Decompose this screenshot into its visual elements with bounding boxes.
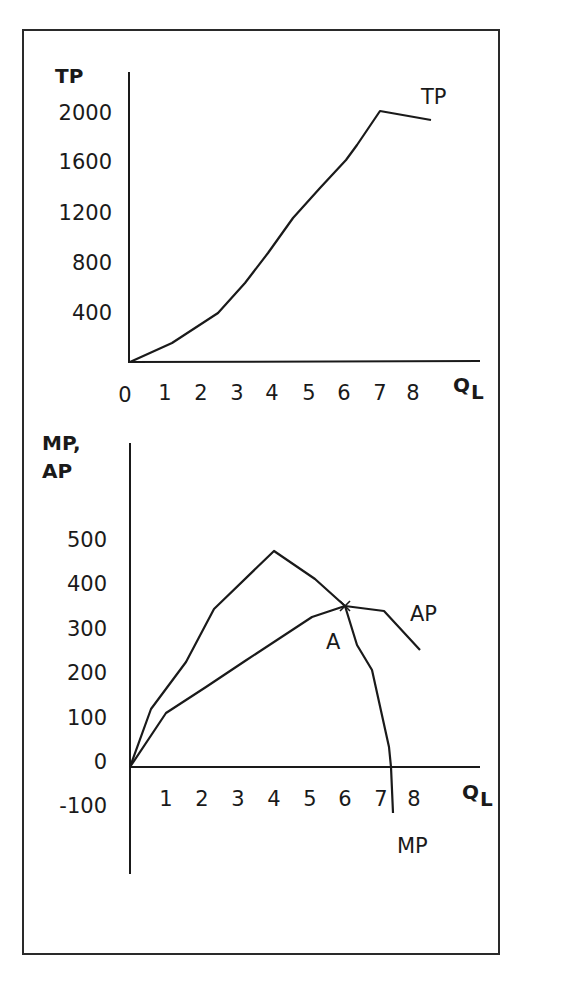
tp-ytick-400: 400 [72,301,112,325]
mp-ap-ytick-200: 200 [67,661,107,685]
mp-ap-xtick: 4 [267,787,280,811]
svg-text:L: L [471,380,484,404]
mp-ap-chart: MP, AP 500 400 300 200 100 0 -100 1 2 3 … [42,431,493,874]
tp-x-axis [129,361,480,362]
mp-ap-xtick: 6 [338,787,351,811]
tp-ytick-2000: 2000 [59,101,112,125]
tp-xtick: 7 [373,381,386,405]
mp-ap-x-ticks: 1 2 3 4 5 6 7 8 [159,787,420,811]
mp-curve [130,551,393,813]
mp-ap-ytick-500: 500 [67,528,107,552]
tp-xtick: 0 [118,383,131,407]
mp-ap-ytick-300: 300 [67,617,107,641]
mp-curve-label: MP [397,834,428,858]
mp-ap-ytick-100: 100 [67,706,107,730]
point-a-label: A [326,630,341,654]
tp-ytick-1600: 1600 [59,150,112,174]
tp-xtick: 2 [194,381,207,405]
mp-ap-xtick: 7 [374,787,387,811]
tp-x-axis-label: Q L [453,373,484,404]
tp-xtick: 5 [302,381,315,405]
tp-ytick-800: 800 [72,251,112,275]
mp-ap-xtick: 5 [303,787,316,811]
mp-ap-ytick-0: 0 [94,750,107,774]
tp-xtick: 3 [230,381,243,405]
tp-y-ticks: 2000 1600 1200 800 400 [59,101,112,325]
tp-y-axis-label: TP [55,64,83,88]
tp-xtick: 6 [337,381,350,405]
mp-ap-ytick-minus100: -100 [59,794,107,818]
mp-ap-x-axis-label: Q L [462,780,493,811]
production-charts: TP 2000 1600 1200 800 400 0 1 2 3 4 5 6 … [0,0,561,988]
mp-ap-xtick: 1 [159,787,172,811]
tp-xtick: 4 [265,381,278,405]
svg-text:L: L [480,787,493,811]
tp-chart: TP 2000 1600 1200 800 400 0 1 2 3 4 5 6 … [55,64,484,407]
svg-text:Q: Q [462,780,479,804]
tp-ytick-1200: 1200 [59,201,112,225]
tp-curve [130,111,431,362]
tp-xtick: 8 [406,381,419,405]
tp-curve-label: TP [420,85,447,109]
mp-ap-y-axis-label-line2: AP [42,459,72,483]
svg-text:Q: Q [453,373,470,397]
mp-ap-y-ticks: 500 400 300 200 100 0 -100 [59,528,107,818]
mp-ap-xtick: 2 [195,787,208,811]
ap-curve-label: AP [410,602,437,626]
mp-ap-y-axis-label-line1: MP, [42,431,81,455]
mp-ap-ytick-400: 400 [67,572,107,596]
mp-ap-xtick: 8 [407,787,420,811]
tp-xtick: 1 [158,381,171,405]
tp-x-ticks: 0 1 2 3 4 5 6 7 8 [118,381,419,407]
mp-ap-xtick: 3 [231,787,244,811]
